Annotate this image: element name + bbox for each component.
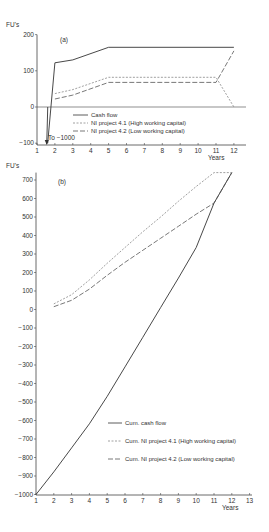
y-axis-label-a: FU's [6, 21, 20, 28]
x-tick-label: 12 [228, 497, 236, 504]
x-tick-label: 5 [107, 147, 111, 154]
x-tick-label: 5 [105, 497, 109, 504]
chart-panel-b: FU's (b) 7006005004003002001000−100−200−… [6, 162, 254, 511]
x-tick-label: 12 [230, 147, 238, 154]
legend-label: Cum. cash flow [125, 420, 167, 426]
y-tick-label: 0 [30, 103, 34, 110]
x-tick-label: 13 [246, 497, 254, 504]
y-tick-label: 100 [22, 287, 33, 294]
legend-label: NI project 4.1 (High working capital) [91, 120, 186, 126]
series-line-2 [54, 173, 232, 307]
x-tick-label: 11 [211, 497, 218, 504]
x-axis-label-a: Years [208, 154, 225, 161]
legend-label: Cum. NI project 4.1 (High working capita… [125, 438, 236, 444]
x-tick-label: 9 [177, 497, 181, 504]
x-tick-label: 10 [194, 147, 202, 154]
x-tick-label: 10 [193, 497, 201, 504]
x-axis-label-b: Years [222, 504, 239, 511]
y-tick-label: 500 [22, 213, 33, 220]
y-axis-label-b: FU's [6, 162, 20, 169]
x-tick-label: 6 [125, 147, 129, 154]
y-tick-label: 400 [22, 232, 33, 239]
x-tick-label: 1 [35, 147, 39, 154]
y-tick-label: 300 [22, 250, 33, 257]
x-tick-label: 4 [89, 147, 93, 154]
chart-figure: FU's (a) 2001000−100123456789101112 To −… [0, 0, 269, 532]
legend-label: Cash flow [91, 112, 118, 118]
series-b [36, 173, 232, 495]
y-tick-label: −600 [18, 417, 33, 424]
y-tick-label: 0 [29, 306, 33, 313]
series-line-1 [54, 173, 232, 304]
y-tick-label: −700 [18, 435, 33, 442]
legend-label: Cum. NI project 4.2 (Low working capital… [125, 456, 235, 462]
y-tick-label: 700 [22, 176, 33, 183]
legend-a: Cash flowNI project 4.1 (High working ca… [73, 112, 186, 134]
x-tick-label: 8 [160, 147, 164, 154]
y-tick-label: −200 [18, 343, 33, 350]
y-tick-label: −100 [19, 139, 34, 146]
y-tick-label: −500 [18, 398, 33, 405]
x-tick-label: 3 [71, 147, 75, 154]
x-tick-label: 8 [159, 497, 163, 504]
y-tick-label: −800 [18, 454, 33, 461]
x-tick-label: 2 [53, 147, 57, 154]
y-tick-label: 200 [22, 269, 33, 276]
annotation-to-minus-1000: To −1000 [48, 134, 75, 141]
series-line-1 [55, 77, 234, 107]
x-tick-label: 11 [213, 147, 220, 154]
panel-label-b: (b) [58, 178, 66, 186]
series-line-0 [36, 173, 232, 495]
y-tick-label: −400 [18, 380, 33, 387]
x-tick-label: 1 [34, 497, 38, 504]
legend-label: NI project 4.2 (Low working capital) [91, 128, 185, 134]
y-tick-label: −100 [18, 324, 33, 331]
x-tick-label: 6 [123, 497, 127, 504]
y-tick-label: −900 [18, 472, 33, 479]
chart-panel-a: FU's (a) 2001000−100123456789101112 To −… [6, 21, 246, 161]
x-tick-label: 3 [70, 497, 74, 504]
y-tick-label: −1000 [15, 491, 34, 498]
x-tick-label: 4 [88, 497, 92, 504]
axes-b: 7006005004003002001000−100−200−300−400−5… [15, 173, 254, 504]
y-tick-label: 200 [23, 31, 34, 38]
x-tick-label: 2 [52, 497, 56, 504]
y-tick-label: 600 [22, 195, 33, 202]
y-tick-label: −300 [18, 361, 33, 368]
legend-b: Cum. cash flowCum. NI project 4.1 (High … [108, 420, 236, 462]
panel-label-a: (a) [60, 36, 68, 44]
x-tick-label: 9 [178, 147, 182, 154]
x-tick-label: 7 [141, 497, 145, 504]
x-tick-label: 7 [143, 147, 147, 154]
y-tick-label: 100 [23, 67, 34, 74]
series-line-2 [55, 51, 234, 99]
